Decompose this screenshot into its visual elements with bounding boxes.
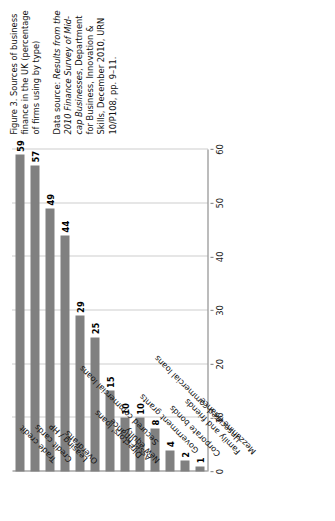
page-canvas: Figure 3. Sources of business finance in…	[0, 0, 335, 521]
bar-value-label: 25	[90, 322, 100, 337]
bar-value-label: 59	[15, 140, 25, 155]
tick-mark-icon	[210, 363, 213, 364]
source-prefix: Data source:	[51, 79, 61, 134]
bar[interactable]	[105, 391, 114, 472]
tick-mark-icon	[210, 471, 213, 472]
value-axis-ticks: 0102030405060	[210, 149, 226, 471]
bar-row[interactable]: 15	[105, 149, 114, 471]
bar-row[interactable]: 1	[195, 149, 204, 471]
tick-mark-icon	[210, 310, 213, 311]
bar-row[interactable]: 49	[45, 149, 54, 471]
bar-row[interactable]: 2	[180, 149, 189, 471]
bar-row[interactable]: 59	[15, 149, 24, 471]
bar-row[interactable]: 44	[60, 149, 69, 471]
tick-mark-icon	[210, 149, 213, 150]
bar-series: 5957494429251510108421	[12, 149, 207, 471]
x-tick-label-20: 20	[210, 358, 224, 369]
bar-value-label: 15	[105, 376, 115, 391]
bar-value-label: 10	[120, 403, 130, 418]
bar[interactable]	[60, 235, 69, 471]
bar[interactable]	[135, 417, 144, 471]
x-tick-label-60: 60	[210, 144, 224, 155]
bar-row[interactable]: 29	[75, 149, 84, 471]
tick-mark-icon	[210, 202, 213, 203]
bar-value-label: 57	[30, 150, 40, 165]
bar-value-label: 1	[195, 457, 205, 466]
bar-value-label: 29	[75, 301, 85, 316]
bar[interactable]	[150, 428, 159, 471]
bar-value-label: 8	[150, 419, 160, 428]
bar[interactable]	[75, 315, 84, 471]
bar-value-label: 10	[135, 403, 145, 418]
tick-mark-icon	[210, 256, 213, 257]
bar-row[interactable]: 10	[120, 149, 129, 471]
bar-row[interactable]: 25	[90, 149, 99, 471]
bar-row[interactable]: 10	[135, 149, 144, 471]
bar[interactable]	[90, 337, 99, 471]
figure-caption: Figure 3. Sources of business finance in…	[8, 6, 118, 134]
x-tick-label-30: 30	[210, 305, 224, 316]
bar[interactable]	[195, 466, 204, 471]
bar-value-label: 2	[180, 451, 190, 460]
bar[interactable]	[30, 165, 39, 471]
bar-chart: 5957494429251510108421 0102030405060 Tra…	[4, 143, 331, 517]
x-tick-label-50: 50	[210, 197, 224, 208]
bar-row[interactable]: 57	[30, 149, 39, 471]
figure-source: Data source: Results from the 2010 Finan…	[51, 6, 118, 134]
bar[interactable]	[120, 417, 129, 471]
x-tick-label-10: 10	[210, 412, 224, 423]
bar[interactable]	[165, 450, 174, 471]
bar[interactable]	[15, 154, 24, 471]
bar-value-label: 49	[45, 193, 55, 208]
bar-value-label: 44	[60, 220, 70, 235]
bar[interactable]	[45, 208, 54, 471]
bar-value-label: 4	[165, 441, 175, 450]
x-tick-label-0: 0	[210, 468, 224, 473]
x-tick-label-40: 40	[210, 251, 224, 262]
tick-mark-icon	[210, 417, 213, 418]
figure-title: Figure 3. Sources of business finance in…	[8, 6, 42, 134]
bar-row[interactable]: 4	[165, 149, 174, 471]
bar[interactable]	[180, 460, 189, 471]
bar-row[interactable]: 8	[150, 149, 159, 471]
plot-area: 5957494429251510108421	[12, 149, 208, 471]
